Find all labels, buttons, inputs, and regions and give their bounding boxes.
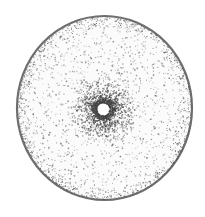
disc-illustration xyxy=(0,0,205,217)
stippled-disc-drawing xyxy=(0,0,205,217)
center-hole xyxy=(98,104,109,115)
